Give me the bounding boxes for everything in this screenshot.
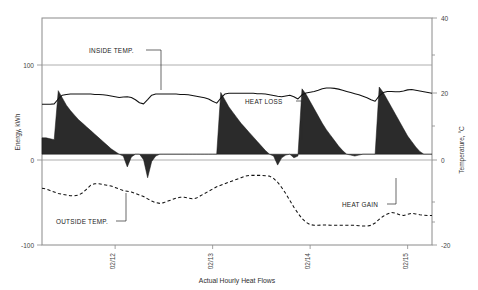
annotation-label-outside-temp: OUTSIDE TEMP. (56, 218, 108, 225)
left-tick-label-neg100: -100 (21, 242, 34, 249)
left-axis: 100 0 -100 Energy, kWh (14, 62, 42, 249)
left-tick-label-100: 100 (23, 62, 34, 69)
bottom-axis: 02/1202/1302/1402/15 Actual Hourly Heat … (109, 245, 409, 285)
x-tick-label-02/13: 02/13 (207, 253, 214, 270)
right-axis: 40 20 0 -20 Temperature, °C (432, 15, 466, 249)
right-tick-label-40: 40 (441, 15, 449, 22)
right-axis-title: Temperature, °C (458, 126, 466, 174)
x-tick-group: 02/1202/1302/1402/15 (109, 245, 409, 269)
chart-x-title: Actual Hourly Heat Flows (199, 277, 276, 285)
heat-flow-chart: 100 0 -100 Energy, kWh 40 20 0 -20 Tempe… (0, 0, 478, 290)
right-tick-label-0: 0 (441, 157, 445, 164)
annotation-label-heat-loss: HEAT LOSS (245, 98, 283, 105)
x-tick-label-02/14: 02/14 (304, 253, 311, 270)
left-tick-label-0: 0 (30, 157, 34, 164)
chart-container: 100 0 -100 Energy, kWh 40 20 0 -20 Tempe… (0, 0, 478, 290)
right-tick-label-20: 20 (441, 90, 449, 97)
x-tick-label-02/15: 02/15 (402, 253, 409, 270)
right-tick-label-neg20: -20 (441, 242, 451, 249)
annotation-label-heat-gain: HEAT GAIN (342, 201, 378, 208)
x-tick-label-02/12: 02/12 (109, 253, 116, 270)
annotation-label-inside-temp: INSIDE TEMP. (89, 47, 134, 54)
left-axis-title: Energy, kWh (14, 113, 22, 150)
